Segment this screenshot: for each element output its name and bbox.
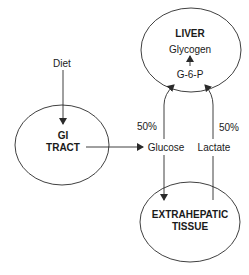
gi-label-line2: TRACT xyxy=(46,142,80,153)
lactate-to-liver-arrow xyxy=(205,85,213,139)
diagram-canvas xyxy=(0,0,249,275)
lactate-label: Lactate xyxy=(198,142,231,153)
liver-title: LIVER xyxy=(175,28,204,39)
lactate-pct-label: 50% xyxy=(219,122,239,133)
extrahepatic-label-line1: EXTRAHEPATIC xyxy=(152,209,228,220)
glucose-to-liver-arrow xyxy=(164,85,174,139)
extrahepatic-label-line2: TISSUE xyxy=(172,221,208,232)
gi-label-line1: GI xyxy=(58,130,69,141)
g6p-label: G-6-P xyxy=(177,69,204,80)
glucose-pct-label: 50% xyxy=(137,121,157,132)
glucose-label: Glucose xyxy=(148,142,185,153)
glycogen-label: Glycogen xyxy=(169,44,211,55)
diet-label: Diet xyxy=(53,58,71,69)
